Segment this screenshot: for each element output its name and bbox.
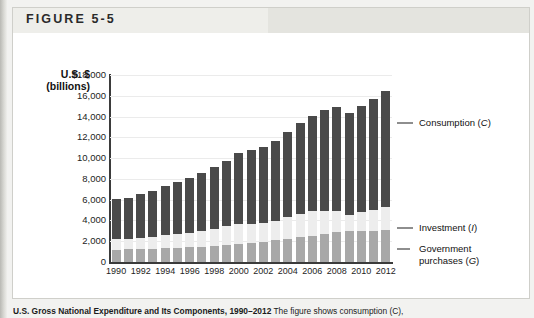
figure-number-label: FIGURE 5-5 <box>26 12 116 26</box>
bar-segment-consumption <box>124 198 133 240</box>
bar-segment-investment <box>296 214 305 238</box>
y-tick-label: 16,000 <box>44 90 106 101</box>
bar-segment-investment <box>210 229 219 247</box>
y-tick-label: 6,000 <box>44 194 106 205</box>
bar-1994 <box>161 186 170 262</box>
bar-segment-investment <box>283 217 292 239</box>
legend-leader-line-consumption <box>397 122 413 124</box>
bar-segment-government <box>222 245 231 262</box>
bar-segment-consumption <box>332 107 341 211</box>
bar-2005 <box>296 123 305 262</box>
bar-2001 <box>247 150 256 262</box>
bar-segment-investment <box>173 234 182 248</box>
bar-segment-consumption <box>210 167 219 228</box>
bar-2012 <box>381 91 390 262</box>
bar-segment-government <box>161 248 170 262</box>
legend-leader-line-investment <box>397 227 413 229</box>
bar-segment-government <box>173 248 182 262</box>
y-tick-label: $18,000 <box>44 69 106 80</box>
bar-1999 <box>222 161 231 262</box>
bar-segment-government <box>345 231 354 262</box>
legend-label-consumption: Consumption (C) <box>419 117 529 129</box>
bar-2009 <box>345 113 354 262</box>
gridline <box>110 96 392 97</box>
bar-1992 <box>136 194 145 262</box>
bar-segment-government <box>308 236 317 262</box>
bar-segment-investment <box>259 223 268 242</box>
bar-1996 <box>185 178 194 262</box>
bar-segment-consumption <box>345 113 354 215</box>
bar-2006 <box>308 116 317 262</box>
bar-segment-government <box>296 237 305 262</box>
bar-segment-government <box>320 234 329 262</box>
y-tick-label: 12,000 <box>44 131 106 142</box>
bar-1997 <box>197 173 206 262</box>
bar-segment-consumption <box>283 132 292 217</box>
bar-segment-investment <box>148 237 157 249</box>
bar-2004 <box>283 132 292 262</box>
bar-segment-investment <box>320 211 329 235</box>
bar-segment-consumption <box>369 99 378 210</box>
bar-segment-consumption <box>271 141 280 221</box>
bar-segment-investment <box>271 221 280 240</box>
y-tick-label: 8,000 <box>44 173 106 184</box>
bar-segment-government <box>124 249 133 262</box>
bar-2003 <box>271 141 280 262</box>
bar-segment-investment <box>308 211 317 236</box>
bar-segment-government <box>259 242 268 262</box>
bar-2007 <box>320 110 329 262</box>
x-axis-line <box>109 262 393 264</box>
bar-segment-consumption <box>247 150 256 223</box>
bar-segment-consumption <box>136 194 145 238</box>
bar-segment-government <box>271 240 280 262</box>
bar-1993 <box>148 191 157 262</box>
gridline <box>110 75 392 76</box>
bar-segment-consumption <box>148 191 157 238</box>
bar-segment-investment <box>185 233 194 248</box>
y-tick-label: 14,000 <box>44 111 106 122</box>
bar-segment-investment <box>247 224 256 243</box>
bar-1995 <box>173 182 182 262</box>
bar-segment-government <box>210 246 219 262</box>
bar-segment-government <box>283 239 292 262</box>
bar-segment-investment <box>112 239 121 250</box>
bar-segment-investment <box>222 226 231 245</box>
bar-segment-government <box>197 247 206 262</box>
legend-label-investment: Investment (I) <box>419 222 529 234</box>
bar-segment-consumption <box>296 123 305 213</box>
page-edge-gutter <box>0 0 7 318</box>
bar-segment-consumption <box>259 147 268 223</box>
figure-caption-bold: U.S. Gross National Expenditure and Its … <box>13 306 271 316</box>
bar-segment-investment <box>332 211 341 233</box>
bar-segment-consumption <box>173 182 182 234</box>
plot-area <box>110 75 392 262</box>
bar-2011 <box>369 99 378 262</box>
bar-segment-investment <box>381 207 390 230</box>
bar-2010 <box>357 106 366 262</box>
bar-1998 <box>210 167 219 262</box>
figure-page: FIGURE 5-5 U.S. $ (billions) $18,00016,0… <box>0 0 534 318</box>
bar-2000 <box>234 153 243 262</box>
bar-segment-government <box>148 249 157 262</box>
figure-caption-rest: The figure shows consumption (C), <box>271 306 403 316</box>
bar-segment-investment <box>234 224 243 245</box>
y-tick-label: 10,000 <box>44 152 106 163</box>
bar-segment-consumption <box>197 173 206 231</box>
bar-segment-consumption <box>112 199 121 239</box>
y-tick-label: 4,000 <box>44 214 106 225</box>
bar-segment-government <box>234 244 243 262</box>
y-tick-label: 0 <box>44 256 106 267</box>
bar-segment-investment <box>357 212 366 231</box>
bar-segment-investment <box>136 238 145 248</box>
bar-1990 <box>112 199 121 262</box>
figure-caption: U.S. Gross National Expenditure and Its … <box>13 306 529 316</box>
bar-segment-consumption <box>222 161 231 227</box>
bar-segment-government <box>247 243 256 262</box>
bar-segment-investment <box>369 210 378 231</box>
bar-segment-consumption <box>185 178 194 233</box>
bar-segment-government <box>369 231 378 262</box>
bar-1991 <box>124 198 133 262</box>
bar-segment-government <box>381 230 390 262</box>
bar-segment-investment <box>197 231 206 247</box>
bar-segment-consumption <box>357 106 366 212</box>
